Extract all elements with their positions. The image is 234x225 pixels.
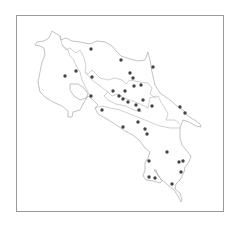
map-point (179, 170, 182, 173)
map-point (151, 65, 154, 68)
map-point (121, 97, 124, 100)
map-point (141, 98, 144, 101)
map-point (89, 94, 92, 97)
map-point (134, 103, 137, 106)
map-point (117, 94, 120, 97)
map-point (147, 159, 150, 162)
map-point (63, 74, 66, 77)
map-point (145, 132, 148, 135)
map-point (74, 69, 77, 72)
map-point (136, 120, 139, 123)
map-point (177, 160, 180, 163)
map-point (100, 108, 103, 111)
map-point (132, 84, 135, 87)
map-point (165, 150, 168, 153)
map-point (153, 176, 156, 179)
map-point (89, 47, 92, 50)
map-point (128, 71, 131, 74)
map-point (139, 83, 142, 86)
map-point (123, 89, 126, 92)
map-point (147, 175, 150, 178)
map-point (178, 105, 181, 108)
map-point (143, 127, 146, 130)
map-point (126, 100, 129, 103)
map-point (111, 89, 114, 92)
map-point (119, 58, 122, 61)
map-point (137, 108, 140, 111)
map-point (183, 111, 186, 114)
map-point (131, 76, 134, 79)
map-canvas (0, 0, 234, 225)
map-frame (17, 16, 224, 212)
map-point (181, 159, 184, 162)
map-point (90, 75, 93, 78)
map-point (121, 125, 124, 128)
map-point (150, 104, 153, 107)
map-point (170, 182, 173, 185)
